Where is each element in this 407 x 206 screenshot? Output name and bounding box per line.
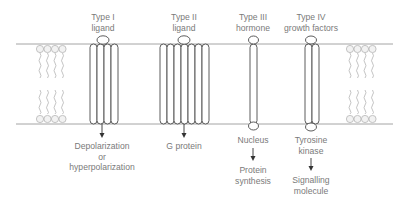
- type3-top-label: Type III hormone: [236, 12, 270, 33]
- type4-receptor: [305, 36, 319, 131]
- type3-receptor: [249, 36, 259, 130]
- type4-secondary-label: Signalling molecule: [292, 175, 329, 196]
- type2-ligand-icon: [178, 36, 190, 44]
- type4-bottom-label: Tyrosine kinase: [295, 135, 327, 156]
- type1-ligand-icon: [97, 36, 109, 44]
- type3-bottom-label: Nucleus: [237, 135, 268, 146]
- type1-receptor: [90, 36, 118, 124]
- type2-bottom-label: G protein: [166, 141, 201, 152]
- type2-arrow-icon: [182, 124, 187, 138]
- type2-receptor: [160, 36, 209, 124]
- lipid-bilayer-right: [346, 45, 376, 122]
- type1-top-label: Type I ligand: [91, 12, 114, 33]
- type4-top-label: Type IV growth factors: [284, 12, 338, 33]
- type4-arrow-icon: [309, 158, 314, 171]
- type3-nucleus-icon: [249, 122, 259, 130]
- type4-kinase-icon: [306, 123, 317, 131]
- type3-arrow-icon: [251, 148, 256, 161]
- type1-arrow-icon: [100, 124, 105, 138]
- type1-bottom-label: Depolarization or hyperpolarization: [69, 141, 134, 173]
- receptor-diagram: [0, 0, 407, 206]
- type2-top-label: Type II ligand: [171, 12, 197, 33]
- type3-secondary-label: Protein synthesis: [235, 165, 271, 186]
- lipid-bilayer-left: [36, 45, 66, 122]
- type3-hormone-icon: [249, 36, 259, 44]
- type4-growth-factor-icon: [306, 36, 317, 44]
